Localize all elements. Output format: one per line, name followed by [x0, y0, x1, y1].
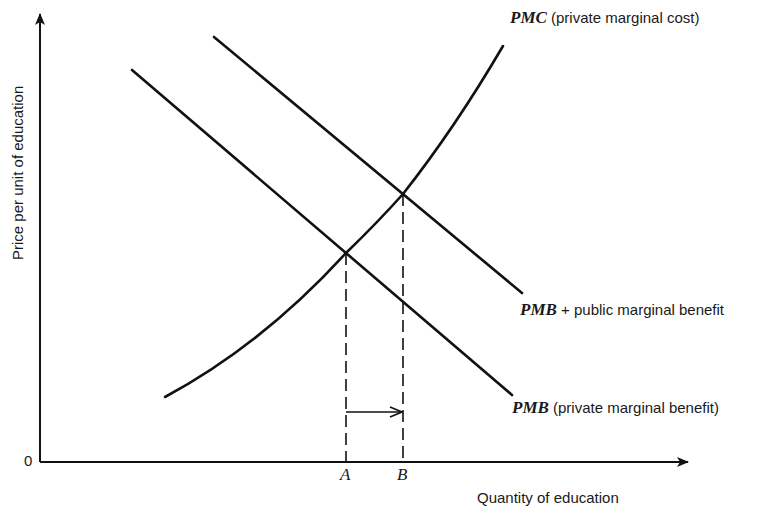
- x-axis-label: Quantity of education: [477, 489, 619, 506]
- pmb-public-desc: + public marginal benefit: [561, 301, 724, 318]
- pmc-abbr: PMC: [510, 8, 547, 27]
- point-a-label: A: [340, 465, 350, 485]
- pmb-public-abbr: PMB: [520, 300, 557, 319]
- education-externality-diagram: Price per unit of education 0 Quantity o…: [0, 0, 767, 518]
- pmb-abbr: PMB: [512, 398, 549, 417]
- point-b-label: B: [397, 465, 407, 485]
- pmb-public-curve: [214, 37, 522, 293]
- pmc-label: PMC (private marginal cost): [510, 8, 699, 28]
- origin-label: 0: [24, 452, 32, 469]
- pmb-desc: (private marginal benefit): [553, 399, 719, 416]
- pmb-public-label: PMB + public marginal benefit: [520, 300, 724, 320]
- pmc-desc: (private marginal cost): [551, 9, 699, 26]
- diagram-canvas: [0, 0, 767, 518]
- pmb-label: PMB (private marginal benefit): [512, 398, 719, 418]
- pmb-curve: [132, 70, 512, 395]
- y-axis-label: Price per unit of education: [9, 86, 26, 260]
